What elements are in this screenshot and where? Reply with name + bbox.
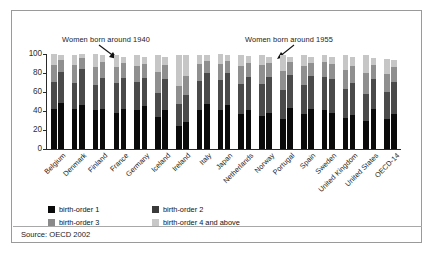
bar-segment	[100, 109, 106, 149]
stacked-bar	[266, 54, 272, 149]
bar-segment	[329, 79, 335, 113]
bar-segment	[259, 55, 265, 65]
bar-segment	[246, 110, 252, 149]
bar-segment	[238, 84, 244, 113]
bar-segment	[363, 73, 369, 94]
legend-swatch-icon	[48, 219, 55, 226]
bar-segment	[142, 64, 148, 77]
bar-group	[214, 54, 235, 149]
bar-segment	[259, 84, 265, 115]
source-note: Source: OECD 2002	[21, 230, 90, 239]
legend-item-birth-order-1: birth-order 1	[48, 205, 152, 214]
bar-segment	[51, 82, 57, 110]
bar-segment	[155, 55, 161, 72]
bar-segment	[371, 109, 377, 149]
bar-group	[47, 54, 68, 149]
bar-segment	[371, 65, 377, 78]
bar-segment	[142, 106, 148, 149]
bar-segment	[58, 60, 64, 72]
bar-segment	[266, 63, 272, 77]
stacked-bar	[218, 54, 224, 149]
bar-segment	[301, 55, 307, 66]
stacked-bar	[121, 54, 127, 149]
bar-group	[359, 54, 380, 149]
bar-segment	[72, 109, 78, 149]
stacked-bar	[114, 54, 120, 149]
bar-segment	[93, 85, 99, 110]
stacked-bar	[197, 54, 203, 149]
y-tick-mark	[43, 54, 46, 55]
legend-label: birth-order 1	[59, 205, 99, 214]
bar-segment	[238, 55, 244, 66]
stacked-bar	[363, 54, 369, 149]
y-tick-mark	[43, 149, 46, 150]
bar-segment	[183, 76, 189, 95]
bar-segment	[100, 78, 106, 109]
bar-segment	[155, 72, 161, 93]
x-axis-label: Finland	[86, 151, 109, 174]
bar-segment	[72, 65, 78, 82]
bar-segment	[259, 65, 265, 84]
bar-segment	[100, 55, 106, 62]
bar-segment	[197, 64, 203, 80]
y-tick-label: 40	[33, 107, 42, 115]
bar-segment	[391, 82, 397, 114]
stacked-bar	[246, 54, 252, 149]
bar-segment	[266, 77, 272, 113]
bar-group	[276, 54, 297, 149]
stacked-bar	[162, 54, 168, 149]
stacked-bar	[343, 54, 349, 149]
stacked-bar	[155, 54, 161, 149]
bar-segment	[322, 55, 328, 62]
bar-segment	[301, 66, 307, 85]
y-tick-mark	[43, 130, 46, 131]
bar-segment	[162, 79, 168, 110]
stacked-bar	[259, 54, 265, 149]
bar-segment	[280, 55, 286, 71]
bar-segment	[162, 110, 168, 149]
stacked-bar	[58, 54, 64, 149]
stacked-bar	[134, 54, 140, 149]
plot-area: 020406080100	[46, 54, 401, 150]
bar-group	[234, 54, 255, 149]
stacked-bar	[100, 54, 106, 149]
bar-segment	[308, 63, 314, 76]
bar-segment	[155, 93, 161, 117]
annotation-cohort-1955: Women born around 1955	[245, 35, 333, 44]
legend-swatch-icon	[152, 219, 159, 226]
legend-swatch-icon	[152, 206, 159, 213]
bar-group	[89, 54, 110, 149]
y-tick-mark	[43, 111, 46, 112]
stacked-bar	[350, 54, 356, 149]
bar-segment	[155, 117, 161, 149]
bar-segment	[121, 78, 127, 109]
bar-segment	[176, 104, 182, 126]
bar-segment	[287, 62, 293, 75]
stacked-bar	[79, 54, 85, 149]
bar-segment	[197, 55, 203, 65]
y-tick-mark	[43, 73, 46, 74]
bar-segment	[51, 65, 57, 81]
stacked-bar	[308, 54, 314, 149]
bar-group	[255, 54, 276, 149]
figure-panel: Women born around 1940 Women born around…	[11, 10, 422, 243]
bar-segment	[384, 119, 390, 149]
bar-group	[109, 54, 130, 149]
annotation-cohort-1940: Women born around 1940	[62, 35, 150, 44]
stacked-bar	[329, 54, 335, 149]
bar-segment	[218, 110, 224, 149]
bar-segment	[93, 54, 99, 67]
bar-segment	[322, 110, 328, 149]
bar-segment	[79, 58, 85, 69]
bar-segment	[280, 90, 286, 119]
bar-segment	[363, 55, 369, 73]
bar-group	[380, 54, 401, 149]
stacked-bar	[384, 54, 390, 149]
bar-segment	[72, 83, 78, 110]
bar-group	[339, 54, 360, 149]
bar-segment	[391, 114, 397, 149]
bar-segment	[350, 66, 356, 82]
bar-segment	[238, 114, 244, 149]
bar-segment	[287, 75, 293, 108]
bar-segment	[343, 70, 349, 89]
